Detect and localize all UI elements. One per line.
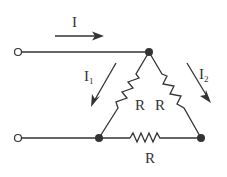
label-r-bottom: R (145, 150, 155, 166)
node-top (145, 48, 153, 56)
arrow-i1-head (91, 94, 100, 107)
node-bottom-left (95, 134, 103, 142)
arrow-i2-head (200, 90, 211, 103)
resistor-bottom (130, 133, 201, 142)
label-i2: I2 (199, 66, 209, 84)
node-bottom-right (197, 134, 205, 142)
label-i1: I1 (84, 68, 94, 86)
resistor-left (99, 52, 149, 138)
terminal-top (15, 49, 22, 56)
label-i: I (72, 14, 77, 30)
resistor-right (149, 52, 201, 138)
terminal-bottom (15, 135, 22, 142)
circuit-svg: I I1 I2 R R R (0, 0, 227, 177)
label-r-left: R (135, 97, 145, 113)
arrow-i1 (93, 63, 116, 103)
circuit-diagram: I I1 I2 R R R (0, 0, 227, 177)
label-r-right: R (155, 97, 165, 113)
